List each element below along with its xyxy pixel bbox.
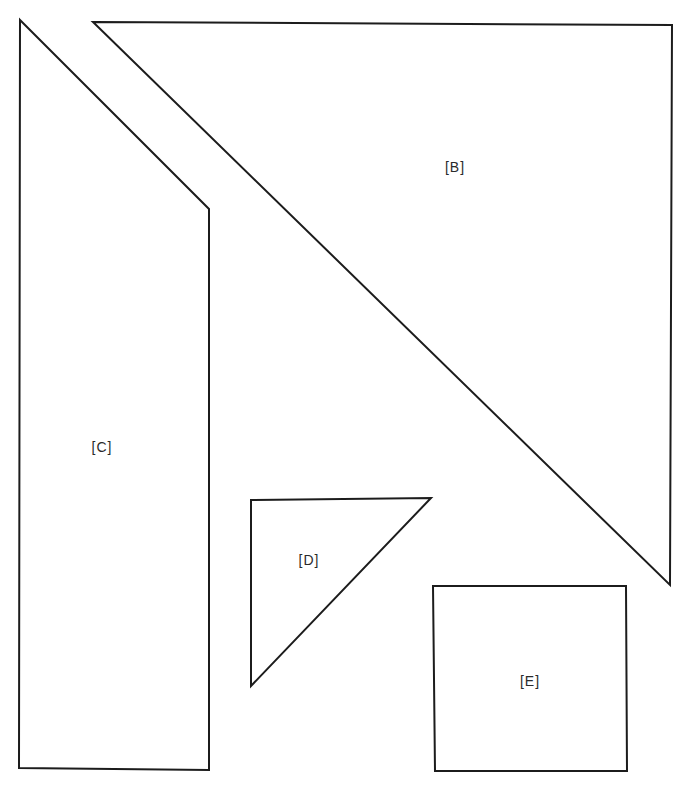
piece-e-label: [E] <box>520 673 540 689</box>
piece-d-shape <box>251 498 431 686</box>
piece-d-label: [D] <box>299 552 320 568</box>
piece-c-shape <box>19 20 209 770</box>
piece-c-label: [C] <box>92 439 113 455</box>
piece-b-label: [B] <box>445 159 465 175</box>
tangram-diagram <box>0 0 689 789</box>
